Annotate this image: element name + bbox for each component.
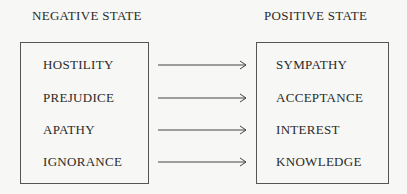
negative-item: HOSTILITY xyxy=(43,57,114,73)
positive-item: KNOWLEDGE xyxy=(276,154,362,170)
arrow-icon xyxy=(158,93,248,103)
positive-item: INTEREST xyxy=(276,122,340,138)
positive-item: ACCEPTANCE xyxy=(276,90,363,106)
negative-item: IGNORANCE xyxy=(43,154,122,170)
arrow-icon xyxy=(158,125,248,135)
positive-item: SYMPATHY xyxy=(276,57,347,73)
negative-state-header: NEGATIVE STATE xyxy=(32,8,142,24)
negative-item: APATHY xyxy=(43,122,95,138)
arrow-icon xyxy=(158,157,248,167)
arrow-icon xyxy=(158,60,248,70)
negative-item: PREJUDICE xyxy=(43,90,114,106)
positive-state-header: POSITIVE STATE xyxy=(264,8,367,24)
